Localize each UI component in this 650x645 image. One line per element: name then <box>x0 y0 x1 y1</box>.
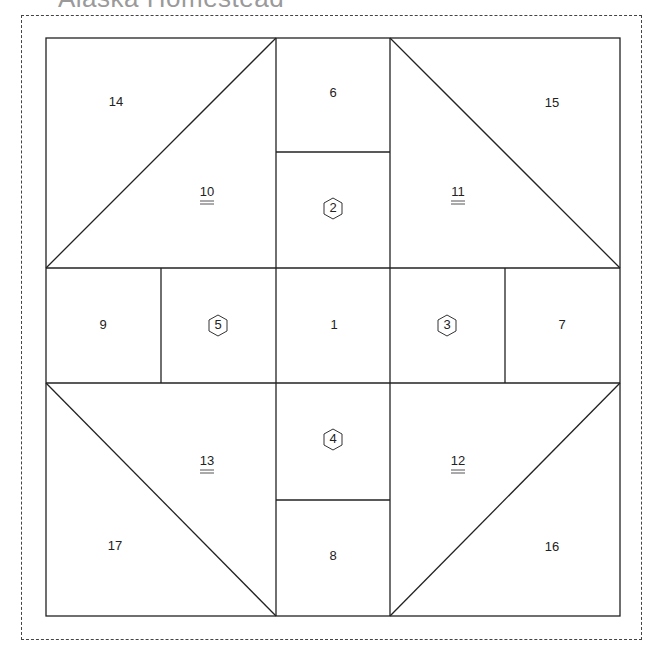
piece-1-label: 1 <box>330 317 337 332</box>
diagonal-11-15 <box>390 38 620 268</box>
piece-17-label: 17 <box>108 538 122 553</box>
piece-3-label: 3 <box>443 317 450 332</box>
piece-9-label: 9 <box>99 317 106 332</box>
piece-5-label: 5 <box>214 317 221 332</box>
piece-13-label: 13 <box>200 453 214 468</box>
quilt-block-diagram: 1 2 3 4 5 6 7 8 9 10 11 12 13 14 15 16 1… <box>0 0 650 645</box>
piece-6-label: 6 <box>329 85 336 100</box>
piece-7-label: 7 <box>558 317 565 332</box>
piece-14-label: 14 <box>109 94 123 109</box>
piece-15-label: 15 <box>545 95 559 110</box>
piece-16-label: 16 <box>545 539 559 554</box>
piece-8-label: 8 <box>329 548 336 563</box>
diagonal-14-10 <box>46 38 276 268</box>
piece-11-label: 11 <box>451 184 465 199</box>
piece-12-label: 12 <box>451 453 465 468</box>
piece-2-label: 2 <box>329 200 336 215</box>
piece-10-label: 10 <box>200 184 214 199</box>
diagonal-13-17 <box>46 383 276 616</box>
piece-4-label: 4 <box>329 431 336 446</box>
diagonal-12-16 <box>390 383 620 616</box>
